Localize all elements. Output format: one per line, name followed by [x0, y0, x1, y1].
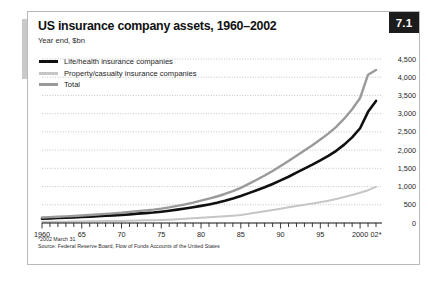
y-axis-tick-label: 3,000	[386, 109, 416, 118]
y-axis-tick-label: 4,500	[386, 55, 416, 64]
y-axis-tick-label: 2,500	[386, 127, 416, 136]
y-axis-tick-label: 2,000	[386, 146, 416, 155]
x-axis-tick-label: 85	[224, 230, 258, 239]
x-axis-tick-label: 95	[303, 230, 337, 239]
chart-plot-area	[28, 12, 421, 266]
y-axis-tick-label: 1,500	[386, 164, 416, 173]
y-axis-tick-label: 4,000	[386, 73, 416, 82]
y-axis-tick-label: 3,500	[386, 91, 416, 100]
y-axis-tick-label: 500	[386, 200, 416, 209]
x-axis-tick-label: 02*	[359, 230, 393, 239]
series-line-2	[42, 70, 376, 218]
x-axis-tick-label: 90	[264, 230, 298, 239]
y-axis-tick-label: 0	[386, 219, 416, 228]
chart-notes: *2002 March 31 Source: Federal Reserve B…	[38, 236, 220, 250]
y-axis-tick-label: 1,000	[386, 182, 416, 191]
figure-card: 7.1 US insurance company assets, 1960–20…	[27, 11, 420, 265]
source-text: Source: Federal Reserve Board, Flow of F…	[38, 243, 220, 250]
footnote-text: *2002 March 31	[38, 236, 220, 243]
